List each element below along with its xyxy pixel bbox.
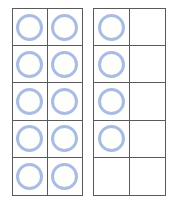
frame-cell bbox=[94, 83, 130, 120]
frame-cell bbox=[48, 121, 83, 158]
frame-cell bbox=[13, 9, 48, 46]
frame-cell bbox=[48, 83, 83, 120]
counter-circle bbox=[51, 88, 78, 115]
counter-circle bbox=[98, 14, 125, 41]
counter-circle bbox=[51, 125, 78, 152]
counter-circle bbox=[16, 88, 43, 115]
counter-circle bbox=[51, 163, 78, 190]
frame-cell bbox=[94, 46, 130, 83]
frame-cell bbox=[94, 121, 130, 158]
frame-cell bbox=[48, 9, 83, 46]
frame-cell bbox=[130, 9, 166, 46]
counter-circle bbox=[16, 163, 43, 190]
counter-circle bbox=[16, 125, 43, 152]
frame-cell bbox=[13, 121, 48, 158]
counter-circle bbox=[16, 51, 43, 78]
frame-cell bbox=[13, 158, 48, 195]
right-ten-frame bbox=[93, 8, 166, 196]
frame-cell bbox=[94, 9, 130, 46]
counter-circle bbox=[51, 51, 78, 78]
frame-cell bbox=[13, 83, 48, 120]
counter-circle bbox=[98, 51, 125, 78]
frame-cell bbox=[48, 46, 83, 83]
counter-circle bbox=[16, 14, 43, 41]
frame-cell bbox=[130, 83, 166, 120]
counter-circle bbox=[98, 88, 125, 115]
frame-cell bbox=[13, 46, 48, 83]
frame-cell bbox=[48, 158, 83, 195]
ten-frames-figure bbox=[0, 0, 183, 209]
frame-cell bbox=[130, 121, 166, 158]
left-ten-frame bbox=[12, 8, 83, 196]
counter-circle bbox=[98, 125, 125, 152]
frame-cell bbox=[130, 158, 166, 195]
frame-cell bbox=[130, 46, 166, 83]
frame-cell bbox=[94, 158, 130, 195]
counter-circle bbox=[51, 14, 78, 41]
